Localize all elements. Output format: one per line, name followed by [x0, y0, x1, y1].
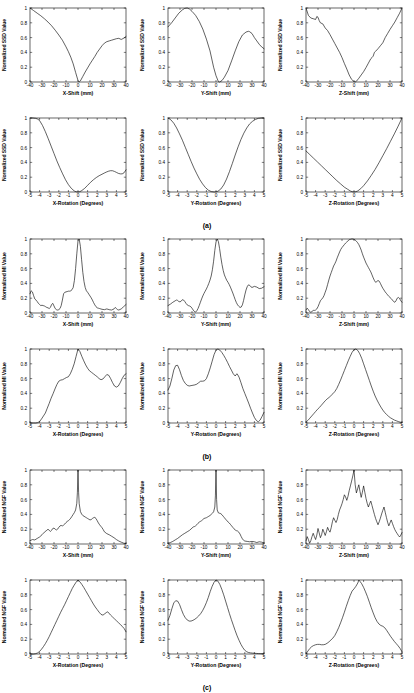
x-tick-label: 40 — [261, 83, 266, 89]
y-tick-label: 1 — [162, 116, 165, 121]
y-tick-label: 0.2 — [20, 175, 27, 180]
plot-svg — [306, 470, 402, 544]
x-tick-label: 2 — [372, 193, 375, 199]
plot-svg — [306, 580, 402, 654]
y-tick-labels: 00.20.40.60.81 — [8, 470, 28, 544]
y-axis-label: Normalized SSD Value — [136, 8, 148, 82]
x-tick-label: 20 — [375, 314, 380, 320]
x-tick-label: -5 — [304, 193, 308, 199]
x-tick-label: 30 — [387, 314, 392, 320]
x-tick-label: -4 — [176, 655, 180, 661]
y-tick-label: 0.2 — [20, 296, 27, 301]
y-axis-label: Normalized MI Value — [0, 239, 10, 313]
x-tick-label: 2 — [234, 424, 237, 430]
x-tick-label: -30 — [177, 314, 184, 320]
x-tick-label: 0 — [77, 314, 80, 320]
x-tick-label: 4 — [391, 655, 394, 661]
y-axis-label: Normalized SSD Value — [0, 8, 10, 82]
x-tick-label: 40 — [399, 545, 404, 551]
x-tick-label: -3 — [323, 424, 327, 430]
x-tick-label: 1 — [86, 655, 89, 661]
x-tick-label: -5 — [166, 655, 170, 661]
x-tick-label: -2 — [333, 193, 337, 199]
x-tick-label: -1 — [204, 193, 208, 199]
plot-svg — [30, 8, 126, 82]
plot-svg — [30, 349, 126, 423]
x-tick-label: -20 — [327, 83, 334, 89]
x-tick-label: 10 — [225, 545, 230, 551]
y-tick-label: 0.6 — [20, 607, 27, 612]
y-tick-label: 0.8 — [158, 20, 165, 25]
panel-a-row-rotation: 00.20.40.60.81-5-4-3-2-1012345Normalized… — [0, 110, 414, 220]
y-tick-label: 0.8 — [20, 251, 27, 256]
y-tick-label: 1 — [300, 6, 303, 11]
y-tick-label: 0.6 — [296, 607, 303, 612]
plot-svg — [306, 118, 402, 192]
x-tick-label: -30 — [39, 314, 46, 320]
y-tick-label: 0.2 — [20, 527, 27, 532]
x-tick-label: 30 — [387, 83, 392, 89]
plot-area — [30, 470, 126, 544]
plot-mi-y-shift: 00.20.40.60.81-40-30-20-10010203040Norma… — [138, 231, 276, 341]
panel-b-row-rotation: 00.20.40.60.81-5-4-3-2-1012345Normalized… — [0, 341, 414, 451]
x-tick-label: -2 — [333, 655, 337, 661]
plot-ssd-y-rotation: 00.20.40.60.81-5-4-3-2-1012345Normalized… — [138, 110, 276, 220]
x-tick-label: 30 — [111, 83, 116, 89]
x-tick-label: 0 — [353, 424, 356, 430]
plot-ngf-x-shift: 00.20.40.60.81-40-30-20-10010203040Norma… — [0, 462, 138, 572]
plot-area — [168, 118, 264, 192]
x-axis-label: Z-Rotation (Degrees) — [306, 431, 402, 438]
x-tick-label: -10 — [339, 314, 346, 320]
x-tick-label: -20 — [189, 83, 196, 89]
panel-caption-b: (b) — [0, 451, 414, 462]
x-tick-label: 0 — [215, 424, 218, 430]
plot-ssd-x-rotation: 00.20.40.60.81-5-4-3-2-1012345Normalized… — [0, 110, 138, 220]
plot-svg — [30, 470, 126, 544]
x-tick-label: -40 — [303, 83, 310, 89]
x-tick-label: 0 — [77, 545, 80, 551]
y-tick-label: 0 — [24, 190, 27, 195]
x-tick-label: -10 — [201, 314, 208, 320]
y-tick-label: 0.6 — [20, 497, 27, 502]
x-tick-label: -40 — [165, 314, 172, 320]
x-axis-label: X-Rotation (Degrees) — [30, 662, 126, 669]
x-tick-label: -10 — [339, 83, 346, 89]
x-tick-label: 20 — [99, 314, 104, 320]
x-tick-label: 30 — [111, 314, 116, 320]
y-tick-label: 0 — [300, 421, 303, 426]
y-tick-label: 0.2 — [158, 527, 165, 532]
y-axis-label: Normalized SSD Value — [0, 118, 10, 192]
x-tick-label: 1 — [224, 193, 227, 199]
x-tick-label: -20 — [51, 83, 58, 89]
y-tick-label: 1 — [162, 347, 165, 352]
x-axis-label: Y-Shift (mm) — [168, 321, 264, 328]
plot-area — [30, 349, 126, 423]
x-tick-label: 0 — [77, 83, 80, 89]
x-tick-label: -30 — [177, 545, 184, 551]
y-tick-label: 0.2 — [296, 65, 303, 70]
x-tick-label: 10 — [87, 545, 92, 551]
x-axis-label: X-Rotation (Degrees) — [30, 431, 126, 438]
x-tick-label: 0 — [215, 655, 218, 661]
x-tick-label: 2 — [96, 424, 99, 430]
plot-area — [306, 8, 402, 82]
plot-area — [306, 349, 402, 423]
y-tick-label: 0.4 — [158, 281, 165, 286]
y-tick-label: 0 — [162, 190, 165, 195]
y-tick-labels: 00.20.40.60.81 — [284, 8, 304, 82]
x-tick-label: 3 — [105, 424, 108, 430]
plot-mi-z-shift: 00.20.40.60.81-40-30-20-10010203040Norma… — [276, 231, 414, 341]
x-tick-label: 20 — [99, 545, 104, 551]
x-tick-label: -5 — [28, 424, 32, 430]
panel-caption-a: (a) — [0, 220, 414, 231]
x-axis-label: Y-Shift (mm) — [168, 90, 264, 97]
x-tick-label: 5 — [263, 424, 266, 430]
x-tick-label: 1 — [362, 655, 365, 661]
x-tick-label: 2 — [372, 424, 375, 430]
x-tick-label: 4 — [115, 655, 118, 661]
x-tick-label: 10 — [225, 83, 230, 89]
x-tick-label: -5 — [304, 424, 308, 430]
y-tick-label: 0.8 — [296, 20, 303, 25]
x-tick-label: -2 — [195, 424, 199, 430]
x-tick-label: 20 — [237, 545, 242, 551]
